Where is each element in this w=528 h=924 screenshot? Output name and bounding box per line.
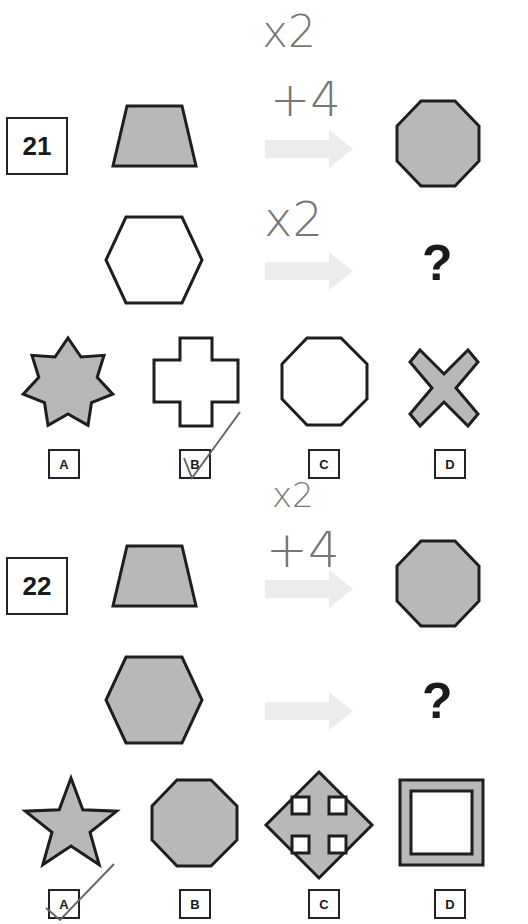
option-c-button-q22[interactable]: C (308, 889, 340, 919)
five-point-star-option-a (24, 774, 118, 868)
question-number-22: 22 (6, 557, 68, 615)
seven-point-star-option-a (22, 336, 114, 430)
option-d-button-q21[interactable]: D (434, 449, 466, 479)
octagon-shape-option-c (280, 336, 370, 428)
notched-diamond-option-c (266, 770, 376, 882)
checkmark-icon (44, 862, 120, 922)
hexagon-shape-q22-question (104, 655, 204, 745)
trapezoid-shape-q22-example (110, 544, 200, 608)
option-b-button-q22[interactable]: B (179, 889, 211, 919)
option-d-button-q22[interactable]: D (434, 889, 466, 919)
arrow-icon (265, 130, 355, 168)
x-shape-option-d (408, 348, 480, 428)
handwritten-note: +4 (266, 525, 340, 575)
arrow-icon (265, 692, 355, 730)
octagon-shape-q22-result (395, 539, 481, 629)
hexagon-shape-q21-question (104, 215, 204, 305)
option-a-button-q21[interactable]: A (48, 449, 80, 479)
handwritten-note: x2 (272, 478, 314, 512)
handwritten-note: +4 (270, 75, 341, 123)
octagon-shape-q21-result (395, 99, 481, 189)
arrow-icon (265, 570, 355, 608)
question-mark: ? (422, 238, 453, 288)
trapezoid-shape-q21-example (110, 104, 200, 168)
octagon-shape-option-b (150, 778, 240, 868)
arrow-icon (265, 252, 355, 290)
question-number-21: 21 (6, 117, 68, 175)
checkmark-icon (180, 410, 250, 485)
handwritten-note: x2 (264, 195, 323, 243)
question-mark: ? (422, 676, 453, 726)
handwritten-note: x2 (262, 10, 316, 54)
square-frame-option-d (398, 778, 486, 868)
